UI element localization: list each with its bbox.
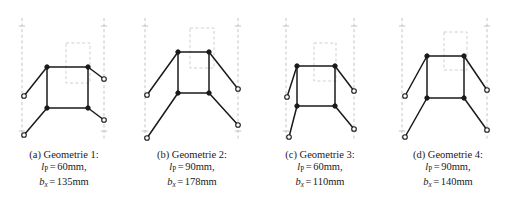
caption-title: (d) Geometrie 4: bbox=[387, 149, 509, 161]
box-joint-node-top-left bbox=[295, 64, 299, 68]
caption-parameter-width: bx=140mm bbox=[387, 176, 509, 191]
parameter-value: 110mm bbox=[313, 176, 345, 187]
equals-sign: = bbox=[176, 161, 185, 172]
geometry-figure-row: (a) Geometrie 1:lP=60mm,bx=135mm(b) Geom… bbox=[0, 0, 512, 198]
panel-caption-b: (b) Geometrie 2:lP=90mm,bx=178mm bbox=[131, 149, 253, 191]
equals-sign: = bbox=[48, 176, 57, 187]
arm-link-bottom-left bbox=[24, 108, 47, 135]
caption-parameter-length: lP=90mm, bbox=[131, 161, 253, 176]
box-joint-node-top-right bbox=[462, 54, 466, 58]
arm-link-bottom-right bbox=[335, 106, 354, 129]
outer-joint-node bbox=[145, 136, 150, 141]
parameter-value: 135mm bbox=[57, 176, 89, 187]
equals-sign: = bbox=[176, 176, 185, 187]
box-joint-node-bottom-left bbox=[45, 106, 49, 110]
outer-joint-node bbox=[102, 118, 107, 123]
outer-joint-node bbox=[287, 135, 292, 140]
caption-parameter-length: lP=60mm, bbox=[259, 161, 381, 176]
box-joint-node-bottom-left bbox=[425, 96, 429, 100]
caption-parameter-width: bx=110mm bbox=[259, 176, 381, 191]
outer-joint-node bbox=[485, 128, 490, 133]
arm-link-top-left bbox=[24, 67, 47, 96]
outer-joint-node bbox=[22, 94, 27, 99]
box-joint-node-bottom-left bbox=[295, 104, 299, 108]
outer-joint-node bbox=[236, 87, 241, 92]
parameter-value: 60mm, bbox=[57, 161, 86, 172]
ghost-rectangle bbox=[190, 28, 214, 68]
box-joint-node-bottom-right bbox=[86, 106, 90, 110]
box-joint-node-bottom-right bbox=[207, 91, 211, 95]
box-joint-node-bottom-left bbox=[176, 91, 180, 95]
panel-caption-a: (a) Geometrie 1:lP=60mm,bx=135mm bbox=[3, 149, 125, 191]
mechanism-diagram-d bbox=[384, 0, 512, 150]
outer-joint-node bbox=[22, 133, 27, 138]
caption-parameter-length: lP=60mm, bbox=[3, 161, 125, 176]
arm-link-top-left bbox=[147, 52, 178, 95]
box-joint-node-bottom-right bbox=[333, 104, 337, 108]
outer-joint-node bbox=[236, 123, 241, 128]
outer-joint-node bbox=[403, 135, 408, 140]
panel-caption-c: (c) Geometrie 3:lP=60mm,bx=110mm bbox=[259, 149, 381, 191]
box-joint-node-top-left bbox=[45, 65, 49, 69]
outer-joint-node bbox=[102, 77, 107, 82]
equals-sign: = bbox=[304, 161, 313, 172]
arm-link-top-left bbox=[405, 56, 427, 96]
arm-link-bottom-left bbox=[289, 106, 297, 137]
caption-title: (b) Geometrie 2: bbox=[131, 149, 253, 161]
box-joint-node-top-right bbox=[86, 65, 90, 69]
outer-joint-node bbox=[403, 94, 408, 99]
mechanism-diagram-b bbox=[128, 0, 256, 150]
box-joint-node-bottom-right bbox=[462, 96, 466, 100]
box-joint-node-top-left bbox=[425, 54, 429, 58]
outer-joint-node bbox=[352, 89, 357, 94]
equals-sign: = bbox=[48, 161, 57, 172]
caption-parameter-width: bx=178mm bbox=[131, 176, 253, 191]
box-joint-node-top-right bbox=[333, 64, 337, 68]
arm-link-top-right bbox=[464, 56, 487, 90]
arm-link-top-right bbox=[335, 66, 354, 91]
parameter-value: 90mm, bbox=[441, 161, 470, 172]
outer-joint-node bbox=[145, 93, 150, 98]
geometry-panel-d: (d) Geometrie 4:lP=90mm,bx=140mm bbox=[384, 0, 512, 198]
parameter-value: 60mm, bbox=[313, 161, 342, 172]
arm-link-bottom-right bbox=[88, 108, 104, 120]
box-joint-node-top-left bbox=[176, 50, 180, 54]
outer-joint-node bbox=[352, 127, 357, 132]
arm-link-bottom-right bbox=[209, 93, 238, 125]
ghost-rectangle bbox=[314, 43, 336, 81]
parameter-value: 140mm bbox=[441, 176, 473, 187]
geometry-panel-a: (a) Geometrie 1:lP=60mm,bx=135mm bbox=[0, 0, 128, 198]
arm-link-top-right bbox=[209, 52, 238, 89]
arm-link-bottom-left bbox=[147, 93, 178, 138]
caption-title: (a) Geometrie 1: bbox=[3, 149, 125, 161]
ghost-rectangle bbox=[66, 43, 90, 83]
parameter-value: 90mm, bbox=[185, 161, 214, 172]
caption-parameter-length: lP=90mm, bbox=[387, 161, 509, 176]
arm-link-top-left bbox=[287, 66, 297, 97]
geometry-panel-b: (b) Geometrie 2:lP=90mm,bx=178mm bbox=[128, 0, 256, 198]
parameter-value: 178mm bbox=[185, 176, 217, 187]
panel-caption-d: (d) Geometrie 4:lP=90mm,bx=140mm bbox=[387, 149, 509, 191]
equals-sign: = bbox=[432, 161, 441, 172]
mechanism-diagram-c bbox=[256, 0, 384, 150]
outer-joint-node bbox=[285, 95, 290, 100]
geometry-panel-c: (c) Geometrie 3:lP=60mm,bx=110mm bbox=[256, 0, 384, 198]
equals-sign: = bbox=[432, 176, 441, 187]
caption-parameter-width: bx=135mm bbox=[3, 176, 125, 191]
outer-joint-node bbox=[485, 88, 490, 93]
arm-link-bottom-right bbox=[464, 98, 487, 130]
caption-title: (c) Geometrie 3: bbox=[259, 149, 381, 161]
box-joint-node-top-right bbox=[207, 50, 211, 54]
mechanism-diagram-a bbox=[0, 0, 128, 150]
arm-link-bottom-left bbox=[405, 98, 427, 137]
equals-sign: = bbox=[304, 176, 313, 187]
